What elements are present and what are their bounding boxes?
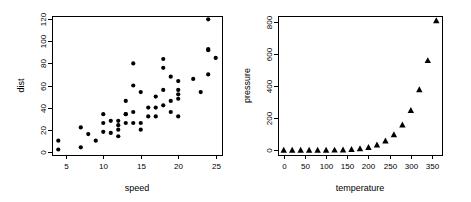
data-point — [56, 139, 60, 143]
data-point — [131, 110, 135, 114]
x-axis-title: speed — [125, 183, 150, 193]
data-point — [94, 139, 98, 143]
data-point — [176, 92, 180, 96]
data-point — [323, 147, 329, 153]
data-point — [146, 114, 150, 118]
plot-box — [279, 17, 443, 156]
cars-scatter-plot: 510152025020406080100120speeddist — [0, 0, 236, 202]
data-point — [116, 128, 120, 132]
data-point-series — [281, 17, 440, 152]
data-point — [169, 75, 173, 79]
data-point — [79, 145, 83, 149]
x-tick-label: 350 — [426, 162, 440, 171]
data-point — [340, 146, 346, 152]
data-point — [154, 114, 158, 118]
y-tick-label: 400 — [265, 79, 274, 93]
data-point — [191, 77, 195, 81]
y-tick-label: 600 — [265, 47, 274, 61]
data-point — [161, 88, 165, 92]
x-axis-title: temperature — [336, 183, 385, 193]
data-point — [365, 144, 371, 150]
data-point — [314, 147, 320, 153]
data-point — [139, 121, 143, 125]
data-point — [306, 147, 312, 153]
data-point — [86, 132, 90, 136]
plot-box — [53, 17, 223, 156]
y-tick-label: 80 — [39, 59, 48, 68]
data-point — [161, 66, 165, 70]
pressure-scatter-plot: 0501001502002503003500200400600800temper… — [236, 0, 471, 202]
data-point — [139, 128, 143, 132]
data-point — [206, 47, 210, 51]
data-point — [399, 122, 405, 128]
x-tick-label: 20 — [174, 162, 183, 171]
data-point — [101, 112, 105, 116]
x-tick-label: 0 — [282, 162, 287, 171]
data-point — [331, 147, 337, 153]
x-tick-label: 200 — [362, 162, 376, 171]
x-tick-label: 15 — [137, 162, 146, 171]
data-point — [289, 147, 295, 153]
y-tick-label: 200 — [265, 111, 274, 125]
scatter-panel-cars: 510152025020406080100120speeddist — [0, 0, 236, 202]
data-point — [374, 142, 380, 148]
data-point — [124, 121, 128, 125]
x-tick-label: 150 — [341, 162, 355, 171]
y-tick-label: 0 — [265, 148, 274, 153]
data-point — [176, 79, 180, 83]
y-tick-label: 60 — [39, 82, 48, 91]
data-point — [206, 72, 210, 76]
data-point — [416, 86, 422, 92]
data-point — [131, 83, 135, 87]
data-point — [161, 103, 165, 107]
y-tick-label: 40 — [39, 104, 48, 113]
data-point — [154, 105, 158, 109]
data-point — [391, 131, 397, 137]
x-tick-label: 5 — [64, 162, 69, 171]
x-tick-label: 250 — [384, 162, 398, 171]
x-tick-label: 10 — [99, 162, 108, 171]
y-tick-label: 100 — [39, 34, 48, 48]
data-point — [176, 97, 180, 101]
data-point — [433, 17, 439, 23]
data-point — [425, 57, 431, 63]
figure-canvas: 510152025020406080100120speeddist 050100… — [0, 0, 471, 202]
data-point — [357, 145, 363, 151]
data-point — [109, 131, 113, 135]
data-point — [176, 114, 180, 118]
x-tick-label: 50 — [301, 162, 310, 171]
data-point — [154, 94, 158, 98]
data-point — [56, 147, 60, 151]
data-point — [139, 90, 143, 94]
x-tick-label: 100 — [320, 162, 334, 171]
data-point — [199, 90, 203, 94]
data-point — [116, 123, 120, 127]
y-tick-label: 0 — [39, 150, 48, 155]
y-axis-title: dist — [16, 78, 26, 93]
y-tick-label: 800 — [265, 15, 274, 29]
data-point — [101, 130, 105, 134]
scatter-panel-pressure: 0501001502002503003500200400600800temper… — [236, 0, 471, 202]
data-point — [131, 61, 135, 65]
data-point — [116, 119, 120, 123]
data-point — [382, 138, 388, 144]
x-tick-label: 25 — [212, 162, 221, 171]
y-tick-label: 120 — [39, 12, 48, 26]
data-point — [79, 125, 83, 129]
y-axis-title: pressure — [242, 68, 252, 103]
data-point — [169, 99, 173, 103]
data-point — [161, 57, 165, 61]
data-point — [131, 121, 135, 125]
y-tick-label: 20 — [39, 126, 48, 135]
data-point — [101, 121, 105, 125]
data-point — [408, 107, 414, 113]
data-point — [116, 134, 120, 138]
data-point — [146, 105, 150, 109]
data-point — [214, 56, 218, 60]
x-tick-label: 300 — [405, 162, 419, 171]
data-point — [124, 99, 128, 103]
data-point — [176, 88, 180, 92]
data-point — [348, 146, 354, 152]
data-point — [281, 147, 287, 153]
data-point — [124, 112, 128, 116]
